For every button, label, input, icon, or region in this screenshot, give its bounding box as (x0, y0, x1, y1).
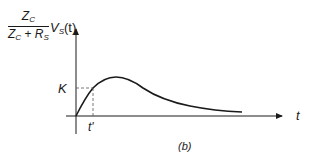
fraction-denominator: ZC + RS (8, 26, 49, 44)
y-axis-fraction-label: ZC ZC + RS (8, 10, 49, 44)
y-axis-multiplier-label: VS(t) (50, 21, 76, 36)
figure-caption: (b) (178, 141, 191, 152)
k-label: K (58, 82, 67, 95)
fraction-numerator: ZC (22, 10, 35, 26)
response-curve (76, 77, 242, 116)
tprime-label: t' (88, 121, 94, 133)
x-axis-label: t (296, 109, 300, 122)
